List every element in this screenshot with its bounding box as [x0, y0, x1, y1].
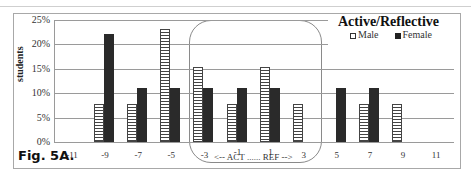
legend: Male Female: [350, 29, 432, 40]
x-tick-label: 11: [424, 150, 448, 160]
bar-male: [160, 29, 170, 142]
top-divider: [0, 6, 471, 7]
bar-female: [203, 88, 213, 142]
legend-male: Male: [350, 29, 379, 40]
x-tick-label: 9: [391, 150, 415, 160]
x-tick-label: 5: [325, 150, 349, 160]
male-swatch-icon: [350, 33, 356, 39]
x-tick-label: -7: [126, 150, 150, 160]
gridline: [54, 20, 328, 21]
bar-male: [127, 104, 137, 142]
x-tick-label: -1: [226, 147, 250, 157]
bar-female: [369, 88, 379, 142]
x-tick-label: -11: [60, 150, 84, 160]
x-tick-label: 1: [259, 147, 283, 157]
bar-male: [193, 67, 203, 142]
x-tick-label: 3: [292, 150, 316, 160]
y-tick-label: 5%: [14, 112, 50, 123]
bar-female: [170, 88, 180, 142]
y-tick-label: 10%: [14, 87, 50, 98]
x-tick-label: -9: [93, 150, 117, 160]
bar-male: [94, 104, 104, 142]
x-tick-label: 7: [358, 150, 382, 160]
x-tick-label: -3: [192, 150, 216, 160]
bar-male: [359, 104, 369, 142]
gridline: [54, 44, 328, 45]
bar-male: [293, 104, 303, 142]
gridline: [54, 142, 454, 143]
chart-title: Active/Reflective: [338, 14, 439, 30]
legend-female: Female: [395, 29, 432, 40]
bar-male: [392, 104, 402, 142]
bar-male: [260, 67, 270, 142]
y-axis-line: [54, 20, 55, 142]
female-swatch-icon: [395, 33, 401, 39]
bar-female: [237, 88, 247, 142]
bar-female: [104, 34, 114, 142]
x-tick-label: -5: [159, 150, 183, 160]
y-tick-label: 0%: [14, 136, 50, 147]
bar-female: [336, 88, 346, 142]
y-tick-label: 15%: [14, 63, 50, 74]
y-tick-label: 20%: [14, 38, 50, 49]
y-tick-label: 25%: [14, 14, 50, 25]
bar-female: [270, 88, 280, 142]
bar-female: [137, 88, 147, 142]
bar-male: [227, 104, 237, 142]
